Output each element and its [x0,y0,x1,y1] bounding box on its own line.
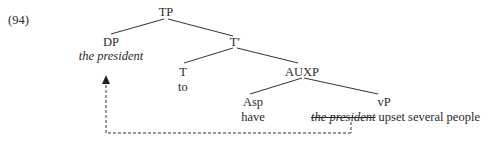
node-vp-content: the president upset several people [311,111,480,124]
branch-tp-tbar [168,19,233,36]
node-dp: DP [103,36,119,49]
node-auxp: AUXP [285,66,319,79]
branch-auxp-vp [304,78,378,94]
node-t-content: to [178,81,188,94]
node-t: T [179,66,187,79]
vp-trace: the president [311,110,375,124]
vp-predicate: upset several people [379,110,480,124]
arrowhead-icon [102,75,110,84]
movement-arrow [106,84,351,133]
node-asp: Asp [243,96,263,109]
node-tp: TP [159,6,174,19]
node-vp: vP [377,96,390,109]
branch-auxp-asp [250,78,302,94]
branch-tp-dp [111,19,164,34]
node-asp-content: have [241,111,265,124]
tree-branches [0,0,494,146]
node-dp-content: the president [79,50,143,63]
node-t-bar: T′ [230,36,240,49]
branch-tbar-auxp [237,48,298,63]
branch-tbar-t [184,48,233,63]
